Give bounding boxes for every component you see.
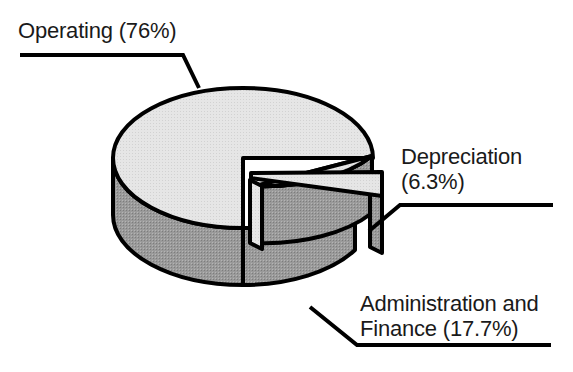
pie-label-admin-line1: Administration and (360, 291, 539, 316)
pie-label-depreciation: Depreciation(6.3%) (401, 144, 522, 194)
pie-label-depreciation-line1: Depreciation (401, 144, 522, 169)
pie-label-administration-and-finance: Administration andFinance (17.7%) (360, 291, 539, 341)
admin-wedge-left-edge (250, 180, 262, 249)
pie-label-admin-line2: Finance (17.7%) (360, 316, 518, 341)
leader-line-operating (20, 55, 199, 88)
pie-label-depreciation-line2: (6.3%) (401, 169, 465, 194)
pie-label-operating: Operating (76%) (18, 18, 176, 43)
pie-chart-figure: Operating (76%) Depreciation(6.3%) Admin… (0, 0, 573, 372)
leader-line-depreciation (369, 205, 553, 231)
